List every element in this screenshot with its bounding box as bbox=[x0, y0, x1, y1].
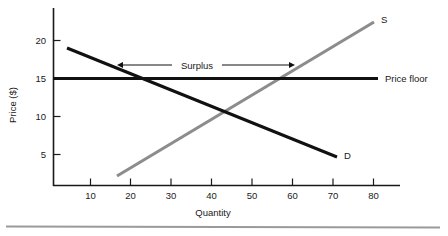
x-tick-label-80: 80 bbox=[368, 190, 379, 201]
x-tick-label-60: 60 bbox=[287, 190, 298, 201]
x-tick-label-10: 10 bbox=[85, 190, 96, 201]
demand-curve-label: D bbox=[344, 150, 351, 161]
x-axis-ticks bbox=[91, 179, 374, 186]
x-tick-label-30: 30 bbox=[166, 190, 177, 201]
footer-divider-rule bbox=[6, 227, 440, 228]
y-tick-label-20: 20 bbox=[35, 35, 46, 46]
x-tick-label-20: 20 bbox=[125, 190, 136, 201]
surplus-annotation: Surplus bbox=[123, 60, 289, 71]
x-tick-label-40: 40 bbox=[206, 190, 217, 201]
supply-curve-label: S bbox=[381, 14, 387, 25]
y-tick-label-10: 10 bbox=[35, 111, 46, 122]
surplus-label: Surplus bbox=[181, 60, 213, 71]
y-tick-label-5: 5 bbox=[41, 149, 46, 160]
price-floor-label: Price floor bbox=[385, 73, 428, 84]
supply-curve bbox=[117, 22, 374, 176]
y-axis-ticks bbox=[54, 41, 61, 155]
y-tick-label-15: 15 bbox=[35, 73, 46, 84]
x-tick-label-70: 70 bbox=[328, 190, 339, 201]
chart-canvas: 20 15 10 5 10 20 30 40 50 60 70 80 Q bbox=[0, 0, 448, 236]
y-axis-tick-labels: 20 15 10 5 bbox=[35, 35, 46, 160]
y-axis-title: Price ($) bbox=[7, 87, 18, 123]
supply-demand-price-floor-figure: 20 15 10 5 10 20 30 40 50 60 70 80 Q bbox=[0, 0, 448, 236]
x-axis-title: Quantity bbox=[195, 207, 231, 218]
x-axis-tick-labels: 10 20 30 40 50 60 70 80 bbox=[85, 190, 379, 201]
x-tick-label-50: 50 bbox=[247, 190, 258, 201]
